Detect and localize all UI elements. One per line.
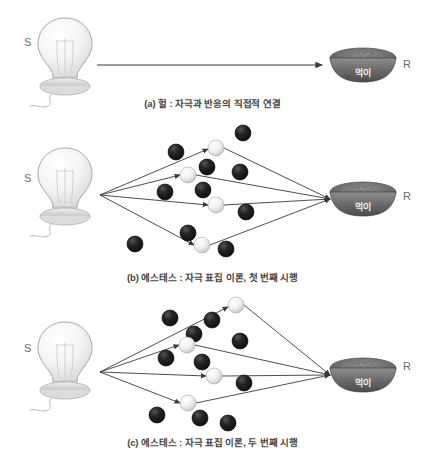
arrow-element-to-r-2 (224, 199, 330, 205)
label-stimulus-c: S (24, 342, 32, 354)
figure-container: 먹이 S R (a) 헐 : 자극과 반응의 직접적 연결 (0, 0, 425, 465)
stimulus-element-unsampled (194, 354, 210, 370)
stimulus-element-sampled (208, 140, 224, 156)
caption-c: (c) 에스테스 : 자극 표집 이론, 두 번째 시행 (0, 435, 425, 449)
panel-c: 먹이 S R (c) 에스테스 : 자극 표집 이론, 두 번째 시행 (0, 290, 425, 465)
stimulus-element-unsampled (158, 350, 174, 366)
panel-b: 먹이 S R (b) 에스테스 : 자극 표집 이론, 첫 번째 시행 (0, 130, 425, 290)
stimulus-element-unsampled (157, 184, 173, 200)
arrow-element-to-r-3 (210, 199, 330, 245)
caption-a: (a) 헐 : 자극과 반응의 직접적 연결 (0, 96, 425, 110)
food-bowl-icon: 먹이 (330, 182, 396, 216)
food-bowl-icon: 먹이 (330, 48, 396, 82)
stimulus-element-sampled (228, 297, 244, 313)
stimulus-element-unsampled (235, 125, 251, 141)
stimulus-element-unsampled (232, 164, 248, 180)
light-bulb-icon (30, 148, 92, 237)
arrow-element-to-r-2 (222, 375, 330, 376)
label-stimulus-a: S (24, 36, 32, 48)
label-response-c: R (403, 360, 411, 372)
stimulus-element-unsampled (127, 236, 143, 252)
light-bulb-icon (30, 322, 92, 411)
stimulus-element-sampled (208, 197, 224, 213)
arrow-s-to-element-3 (100, 372, 180, 403)
stimulus-element-unsampled (220, 415, 236, 431)
arrow-s-to-element-2 (100, 372, 206, 376)
stimulus-element-sampled (180, 167, 196, 183)
arrow-element-to-r-1 (196, 175, 330, 199)
stimulus-element-unsampled (195, 182, 211, 198)
stimulus-element-sampled (194, 237, 210, 253)
panel-b-scene: 먹이 (0, 130, 425, 290)
stimulus-element-unsampled (192, 410, 208, 426)
dot-group-c (149, 297, 252, 431)
stimulus-element-unsampled (236, 375, 252, 391)
panel-a-scene: 먹이 (0, 0, 425, 130)
dot-group-b (127, 125, 254, 257)
bowl-label: 먹이 (355, 377, 371, 388)
stimulus-element-unsampled (204, 312, 220, 328)
label-stimulus-b: S (24, 172, 32, 184)
light-bulb-icon (30, 18, 92, 107)
stimulus-element-sampled (179, 337, 195, 353)
stimulus-element-unsampled (162, 310, 178, 326)
stimulus-element-unsampled (218, 241, 234, 257)
stimulus-element-unsampled (149, 407, 165, 423)
arrow-group-b (100, 148, 330, 245)
caption-b: (b) 에스테스 : 자극 표집 이론, 첫 번째 시행 (0, 270, 425, 284)
label-response-b: R (403, 190, 411, 202)
stimulus-element-sampled (180, 395, 196, 411)
stimulus-element-unsampled (238, 204, 254, 220)
arrow-element-to-r-0 (244, 305, 330, 375)
stimulus-element-unsampled (168, 144, 184, 160)
stimulus-element-unsampled (180, 225, 196, 241)
stimulus-element-sampled (206, 368, 222, 384)
bowl-label: 먹이 (355, 67, 371, 78)
stimulus-element-unsampled (199, 159, 215, 175)
panel-a: 먹이 S R (a) 헐 : 자극과 반응의 직접적 연결 (0, 0, 425, 130)
bowl-label: 먹이 (355, 201, 371, 212)
label-response-a: R (403, 58, 411, 70)
food-bowl-icon: 먹이 (330, 358, 396, 392)
stimulus-element-unsampled (232, 333, 248, 349)
